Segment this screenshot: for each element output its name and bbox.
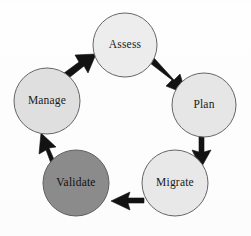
- node-plan-label: Plan: [193, 98, 214, 110]
- node-assess[interactable]: Assess: [93, 13, 157, 77]
- node-validate-label: Validate: [56, 176, 95, 188]
- node-assess-label: Assess: [109, 38, 142, 50]
- arrow-migrate-to-validate: [111, 192, 144, 210]
- diagram-canvas: Assess Plan Migrate Validate Manage: [0, 0, 251, 236]
- node-plan[interactable]: Plan: [172, 73, 236, 137]
- node-migrate[interactable]: Migrate: [142, 150, 208, 216]
- cycle-diagram: Assess Plan Migrate Validate Manage: [0, 0, 251, 236]
- node-manage[interactable]: Manage: [14, 68, 80, 134]
- node-manage-label: Manage: [28, 94, 66, 107]
- node-validate[interactable]: Validate: [43, 150, 109, 216]
- node-migrate-label: Migrate: [156, 176, 194, 189]
